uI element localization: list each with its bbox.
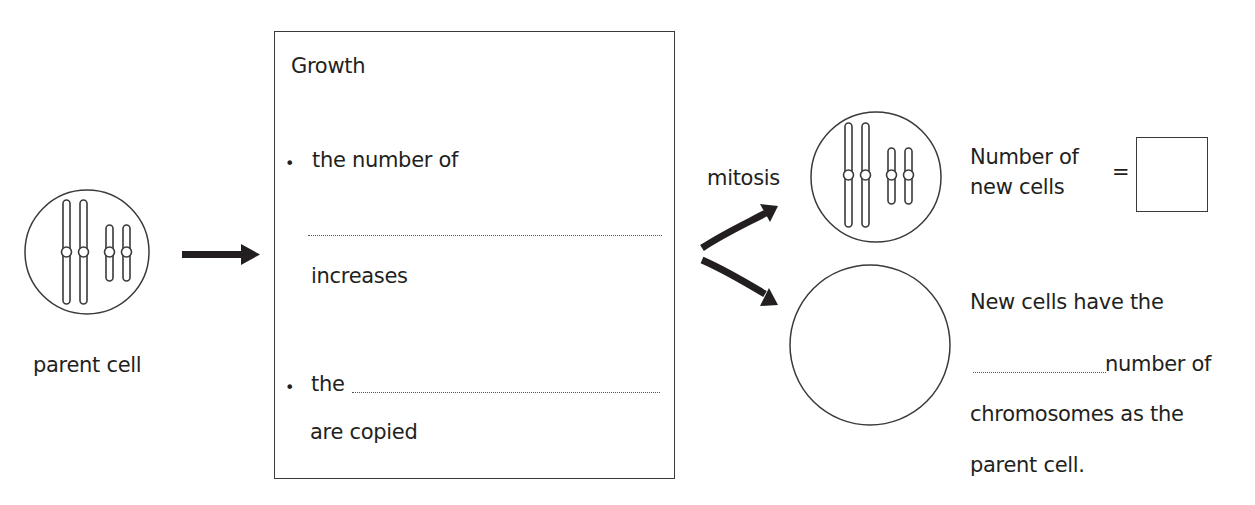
mitosis-label: mitosis	[707, 168, 780, 189]
new-cell-empty[interactable]	[790, 265, 950, 425]
growth-arrow-icon	[182, 244, 260, 265]
bullet-2-continuation: are copied	[310, 422, 417, 443]
bullet-marker: •	[285, 156, 294, 172]
new-cells-count-label-line1: Number of	[970, 147, 1079, 168]
growth-heading: Growth	[291, 56, 365, 77]
new-cell-filled	[811, 112, 941, 242]
bullet-1-text: the number of	[312, 150, 458, 171]
blank-line-1[interactable]	[308, 235, 662, 236]
new-cells-count-answer-box[interactable]	[1136, 137, 1208, 212]
growth-box	[274, 31, 675, 479]
parent-cell	[25, 190, 149, 314]
statement-line-3: chromosomes as the	[970, 404, 1184, 425]
bullet-marker: •	[285, 380, 294, 396]
blank-line-3[interactable]	[973, 372, 1106, 373]
new-cells-count-label-line2: new cells	[970, 177, 1064, 198]
equals-sign: =	[1112, 162, 1129, 183]
bullet-1-continuation: increases	[311, 266, 408, 287]
bullet-2-text: the	[311, 374, 345, 395]
statement-line-4: parent cell.	[970, 455, 1085, 476]
parent-cell-label: parent cell	[33, 355, 141, 376]
statement-line-2: number of	[1105, 354, 1211, 375]
blank-line-2[interactable]	[352, 392, 660, 393]
mitosis-arrows-icon	[702, 213, 766, 294]
statement-line-1: New cells have the	[970, 292, 1164, 313]
